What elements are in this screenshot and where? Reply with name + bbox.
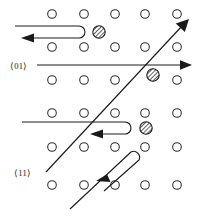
lattice-site xyxy=(80,76,89,85)
lattice-site xyxy=(80,43,89,52)
lattice-site xyxy=(141,181,150,190)
lattice-site xyxy=(173,109,182,118)
lattice-site xyxy=(80,143,89,152)
lattice-site xyxy=(111,43,120,52)
direction-11-label: ⟨11⟩ xyxy=(14,168,31,178)
middle-loop-outline xyxy=(22,122,131,134)
top-loop-outline xyxy=(15,26,85,38)
lattice-dislocation-figure: ⟨01⟩ ⟨11⟩ xyxy=(0,0,199,216)
lattice-site xyxy=(141,109,150,118)
top-loop-arrowhead xyxy=(21,33,34,42)
lattice-site xyxy=(48,109,57,118)
lattice-site xyxy=(111,109,120,118)
lattice-site-grid xyxy=(48,10,182,190)
bottom-dislocation-loop xyxy=(70,151,140,209)
lattice-site xyxy=(173,181,182,190)
lattice-site xyxy=(173,43,182,52)
top-dislocation-loop xyxy=(15,26,85,43)
lattice-site xyxy=(141,143,150,152)
lattice-site xyxy=(80,10,89,19)
direction-01-arrowhead xyxy=(180,60,192,69)
lattice-site xyxy=(111,143,120,152)
middle-dislocation-loop xyxy=(22,122,131,139)
lattice-site xyxy=(48,181,57,190)
lattice-site xyxy=(111,10,120,19)
lattice-site xyxy=(141,10,150,19)
figure-canvas: ⟨01⟩ ⟨11⟩ xyxy=(0,0,199,216)
lattice-site xyxy=(48,43,57,52)
lattice-site xyxy=(111,76,120,85)
solute-site xyxy=(147,69,159,81)
lattice-site xyxy=(48,143,57,152)
bottom-loop-arrowhead xyxy=(96,174,111,182)
solute-site xyxy=(140,122,152,134)
lattice-site xyxy=(80,109,89,118)
lattice-site xyxy=(141,43,150,52)
direction-01-label: ⟨01⟩ xyxy=(10,61,27,71)
solute-site-group xyxy=(93,26,159,134)
lattice-site xyxy=(80,181,89,190)
lattice-site xyxy=(48,76,57,85)
middle-loop-arrowhead xyxy=(90,129,103,138)
direction-01-arrow xyxy=(37,60,192,69)
lattice-site xyxy=(173,76,182,85)
lattice-site xyxy=(48,10,57,19)
solute-site xyxy=(93,26,105,38)
lattice-site xyxy=(173,143,182,152)
lattice-site xyxy=(173,10,182,19)
